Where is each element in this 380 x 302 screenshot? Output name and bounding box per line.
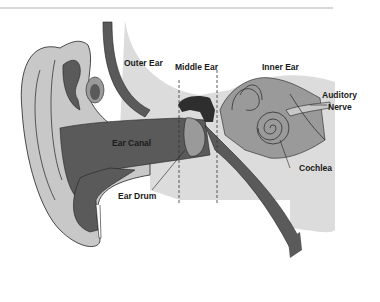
label-auditory: Auditory xyxy=(322,90,357,100)
label-outer-ear: Outer Ear xyxy=(124,58,163,68)
label-inner-ear: Inner Ear xyxy=(262,62,300,72)
label-nerve: Nerve xyxy=(328,102,352,112)
label-cochlea: Cochlea xyxy=(299,163,332,173)
label-middle-ear: Middle Ear xyxy=(175,62,219,72)
label-ear-drum: Ear Drum xyxy=(118,191,157,201)
tragus-inner xyxy=(90,84,100,100)
cochlea-outer xyxy=(257,112,289,144)
label-ear-canal: Ear Canal xyxy=(112,138,151,148)
ear-anatomy-diagram: Outer Ear Middle Ear Inner Ear Auditory … xyxy=(0,0,380,302)
